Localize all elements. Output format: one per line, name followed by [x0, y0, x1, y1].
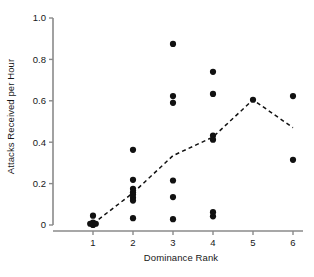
data-point: [210, 69, 216, 75]
data-point: [170, 216, 176, 222]
data-point: [130, 197, 136, 203]
x-tick-label-group: 123456: [90, 237, 295, 248]
data-point: [130, 215, 136, 221]
data-point: [290, 93, 296, 99]
data-point: [210, 213, 216, 219]
x-tick-label: 1: [90, 237, 95, 248]
y-tick-label: 1.0: [33, 12, 46, 23]
y-tick-label: 0.8: [33, 54, 46, 65]
x-tick-label: 5: [250, 237, 255, 248]
x-tick-label: 3: [170, 237, 175, 248]
scatter-plot-figure: Attacks Received per Hour Dominance Rank…: [0, 0, 314, 277]
data-point: [130, 177, 136, 183]
x-axis-label: Dominance Rank: [53, 252, 309, 263]
data-point: [250, 97, 256, 103]
data-point: [170, 100, 176, 106]
data-point: [210, 91, 216, 97]
data-point: [210, 137, 216, 143]
x-tick-label: 4: [210, 237, 215, 248]
data-point: [87, 221, 93, 227]
x-tick-label: 6: [290, 237, 295, 248]
data-point: [170, 41, 176, 47]
plot-canvas: 00.20.40.60.81.0 123456: [0, 0, 314, 277]
data-point: [170, 93, 176, 99]
x-tick-label: 2: [130, 237, 135, 248]
y-tick-label: 0.4: [33, 137, 46, 148]
data-point: [93, 221, 99, 227]
y-tick-label: 0: [41, 219, 46, 230]
data-point: [130, 147, 136, 153]
y-tick-label: 0.2: [33, 178, 46, 189]
y-tick-label: 0.6: [33, 95, 46, 106]
mean-trend-line-group: [93, 100, 293, 224]
axis-spine-group: [53, 18, 303, 231]
data-point: [170, 177, 176, 183]
mean-trend-line: [93, 100, 293, 224]
data-point: [290, 157, 296, 163]
y-tick-label-group: 00.20.40.60.81.0: [33, 12, 46, 230]
data-point: [90, 213, 96, 219]
data-point: [170, 194, 176, 200]
data-point-group: [87, 41, 296, 228]
